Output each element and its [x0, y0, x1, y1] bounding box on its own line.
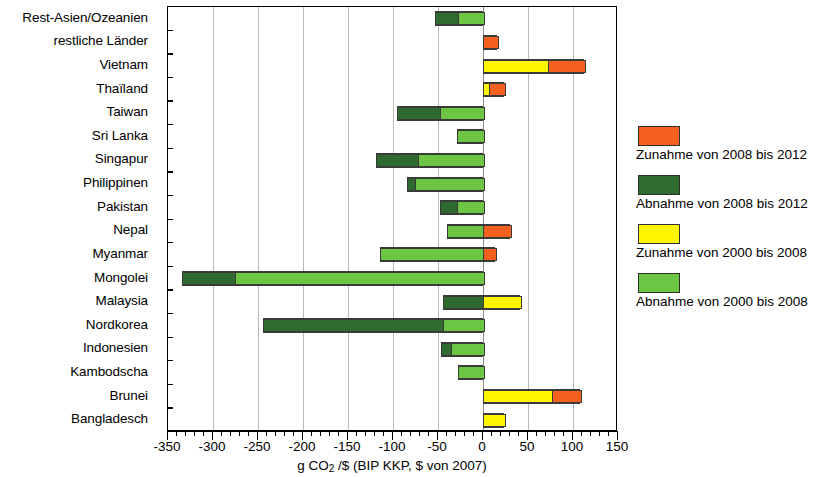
bar-segment — [440, 107, 485, 120]
x-axis-minor-tick — [518, 431, 519, 436]
gridline — [393, 7, 394, 430]
legend-label: Abnahme von 2000 bis 2008 — [636, 294, 835, 310]
x-axis-minor-tick — [455, 431, 456, 436]
bar-segment — [182, 272, 236, 285]
x-axis-minor-tick — [311, 431, 312, 436]
x-axis-minor-tick — [203, 431, 204, 436]
bar — [376, 153, 483, 168]
legend-label: Zunahme von 2000 bis 2008 — [636, 245, 835, 261]
x-axis-minor-tick — [581, 431, 582, 436]
y-axis-tick — [167, 195, 173, 196]
bar-segment — [458, 12, 485, 25]
legend-entry: Zunahme von 2000 bis 2008 — [636, 224, 835, 261]
bar-segment — [397, 107, 442, 120]
chart-root: Rest-Asien/Ozeanienrestliche LänderVietn… — [0, 0, 835, 477]
x-axis-minor-tick — [356, 431, 357, 436]
legend-label: Abnahme von 2008 bis 2012 — [636, 196, 835, 212]
y-axis-tick — [167, 6, 173, 7]
gridline — [258, 7, 259, 430]
y-axis-tick — [167, 384, 173, 385]
x-axis-minor-tick — [410, 431, 411, 436]
x-axis-minor-tick — [239, 431, 240, 436]
y-axis-tick — [167, 171, 173, 172]
x-axis-minor-tick — [545, 431, 546, 436]
y-axis-tick — [167, 407, 173, 408]
y-axis-tick — [167, 313, 173, 314]
bar-segment — [415, 178, 485, 191]
category-label: Thaïland — [96, 82, 148, 96]
legend-swatch — [638, 175, 680, 195]
category-label: Philippinen — [83, 176, 148, 190]
bar-segment — [457, 130, 485, 143]
x-axis-minor-tick — [464, 431, 465, 436]
bar — [263, 318, 483, 333]
x-axis-minor-tick — [284, 431, 285, 436]
legend-swatch — [638, 224, 680, 244]
category-label: Nepal — [113, 223, 148, 237]
x-axis-minor-tick — [176, 431, 177, 436]
bar-segment — [483, 414, 506, 427]
category-label: Nordkorea — [86, 318, 148, 332]
bar-segment — [457, 201, 485, 214]
bar-segment — [451, 343, 485, 356]
legend-entry: Abnahme von 2008 bis 2012 — [636, 175, 835, 212]
x-axis-minor-tick — [383, 431, 384, 436]
bar — [441, 342, 483, 357]
chart-legend: Zunahme von 2008 bis 2012Abnahme von 200… — [636, 126, 835, 322]
y-axis-tick — [167, 30, 173, 31]
x-axis-minor-tick — [590, 431, 591, 436]
gridline — [303, 7, 304, 430]
category-label: Indonesien — [83, 341, 148, 355]
bar — [483, 59, 584, 74]
bar-segment — [443, 319, 485, 332]
y-axis-tick — [167, 77, 173, 78]
bar — [483, 82, 504, 97]
bar-segment — [483, 225, 512, 238]
y-axis-tick — [167, 289, 173, 290]
bar — [483, 35, 497, 50]
x-axis-minor-tick — [509, 431, 510, 436]
gridline — [213, 7, 214, 430]
category-axis-labels: Rest-Asien/Ozeanienrestliche LänderVietn… — [0, 6, 160, 431]
x-axis-minor-tick — [500, 431, 501, 436]
x-axis-minor-tick — [554, 431, 555, 436]
bar-segment — [483, 248, 497, 261]
legend-swatch — [638, 126, 680, 146]
y-axis-tick — [167, 360, 173, 361]
category-label: restliche Länder — [54, 34, 148, 48]
bar-segment — [548, 60, 586, 73]
bar-segment — [483, 36, 499, 49]
legend-label: Zunahme von 2008 bis 2012 — [636, 147, 835, 163]
x-axis-minor-tick — [266, 431, 267, 436]
x-axis-minor-tick — [419, 431, 420, 436]
bar — [443, 295, 520, 310]
bar-segment — [458, 366, 485, 379]
bar-segment — [435, 12, 460, 25]
category-label: Pakistan — [97, 200, 148, 214]
y-axis-tick — [167, 242, 173, 243]
category-label: Kambodscha — [70, 365, 148, 379]
x-axis-minor-tick — [473, 431, 474, 436]
y-axis-tick — [167, 148, 173, 149]
x-axis-minor-tick — [320, 431, 321, 436]
bar-segment — [483, 296, 522, 309]
bar-segment — [552, 390, 582, 403]
bar-segment — [263, 319, 445, 332]
x-axis-title-suffix: /$ (BIP KKP, $ von 2007) — [334, 458, 487, 473]
x-axis-minor-tick — [194, 431, 195, 436]
category-label: Rest-Asien/Ozeanien — [22, 11, 148, 25]
bar — [457, 129, 483, 144]
x-axis-minor-tick — [446, 431, 447, 436]
category-label: Brunei — [110, 389, 148, 403]
x-axis-minor-tick — [374, 431, 375, 436]
bar-segment — [235, 272, 485, 285]
bar — [440, 200, 483, 215]
x-axis-tick-label: 150 — [587, 440, 647, 454]
gridline — [348, 7, 349, 430]
x-axis-title-prefix: g CO — [297, 458, 329, 473]
y-axis-tick — [167, 219, 173, 220]
category-label: Sri Lanka — [92, 129, 148, 143]
x-axis-minor-tick — [248, 431, 249, 436]
x-axis-minor-tick — [563, 431, 564, 436]
bar-segment — [483, 390, 554, 403]
